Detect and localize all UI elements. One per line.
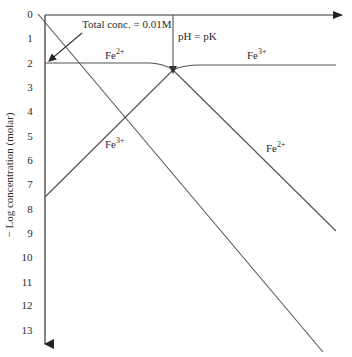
y-tick-12: 12: [22, 299, 33, 311]
y-tick-13: 13: [22, 324, 34, 336]
fe2-top-label: Fe2+: [105, 47, 125, 61]
y-tick-labels: 0 1 2 3 4 5 6 7 8 9 10 11 12 13: [22, 8, 34, 336]
y-tick-4: 4: [27, 105, 33, 117]
y-tick-1: 1: [27, 32, 33, 44]
y-tick-8: 8: [27, 203, 33, 215]
fe2-low-label: Fe2+: [266, 140, 286, 154]
log-concentration-diagram: 0 1 2 3 4 5 6 7 8 9 10 11 12 13 − Log co…: [0, 0, 352, 357]
fe2-curve: [45, 63, 336, 231]
y-tick-5: 5: [27, 130, 33, 142]
y-tick-7: 7: [27, 178, 33, 190]
ph-pk-label: pH = pK: [178, 30, 217, 42]
fe3-top-label: Fe3+: [247, 47, 267, 61]
total-conc-label: Total conc. = 0.01M: [82, 18, 172, 30]
fe3-curve: [45, 65, 336, 197]
y-tick-2: 2: [27, 57, 33, 69]
y-axis-label: − Log concentration (molar): [3, 112, 16, 237]
y-tick-9: 9: [27, 227, 33, 239]
fe3-low-label: Fe3+: [105, 136, 125, 150]
y-tick-3: 3: [27, 81, 33, 93]
y-tick-11: 11: [22, 276, 33, 288]
y-tick-0: 0: [27, 8, 33, 20]
y-tick-6: 6: [27, 154, 33, 166]
y-tick-10: 10: [22, 251, 34, 263]
